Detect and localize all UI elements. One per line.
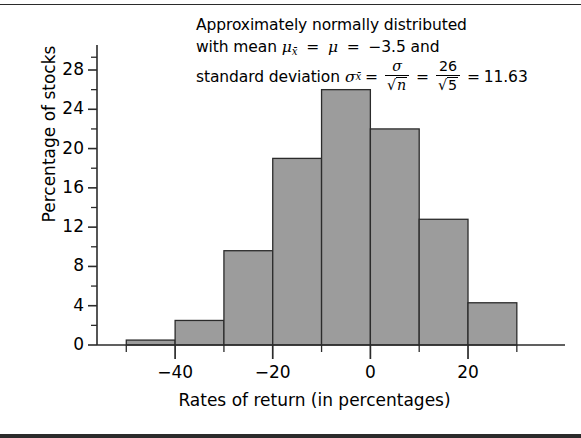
y-axis-tick-label: 20 bbox=[50, 138, 84, 158]
y-axis-tick-label: 0 bbox=[50, 334, 84, 354]
x-axis-tick-label: 0 bbox=[348, 362, 392, 382]
y-axis-tick-label: 4 bbox=[50, 295, 84, 315]
x-axis-tick-label: −20 bbox=[251, 362, 295, 382]
figure-container: Approximately normally distributed with … bbox=[0, 0, 581, 438]
histogram-bar bbox=[175, 320, 224, 345]
chart-plot-area: 0481216202428−40−20020 bbox=[0, 0, 581, 438]
histogram-bar bbox=[273, 158, 322, 345]
histogram-bar bbox=[322, 90, 371, 345]
y-axis-tick-label: 16 bbox=[50, 177, 84, 197]
histogram-bar bbox=[468, 303, 517, 345]
y-axis-tick-label: 28 bbox=[50, 59, 84, 79]
histogram-bar bbox=[370, 129, 419, 345]
histogram-bar bbox=[224, 251, 273, 345]
x-axis-tick-label: 20 bbox=[446, 362, 490, 382]
x-axis-tick-label: −40 bbox=[153, 362, 197, 382]
y-axis-tick-label: 24 bbox=[50, 98, 84, 118]
histogram-bar bbox=[419, 219, 468, 345]
y-axis-tick-label: 8 bbox=[50, 255, 84, 275]
y-axis-tick-label: 12 bbox=[50, 216, 84, 236]
